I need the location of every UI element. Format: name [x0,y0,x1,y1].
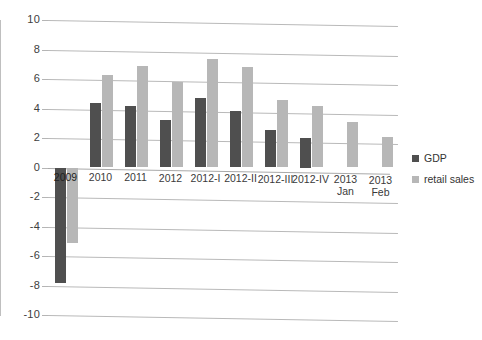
x-axis-label-2013-Feb: 2013Feb [357,174,404,198]
gridline--10 [48,315,398,322]
y-tick-label-4: 4 [0,102,40,114]
y-tick-label--4: -4 [0,220,40,232]
y-tick-label-8: 8 [0,43,40,55]
bar-chart: 20092010201120122012-I2012-II2012-III201… [0,0,482,340]
legend-label: retail sales [424,173,474,185]
legend-swatch-icon [412,155,419,162]
y-tick-label-0: 0 [0,161,40,173]
y-tick--10 [42,315,48,316]
legend-item-retail-sales[interactable]: retail sales [412,173,474,185]
y-tick-label-2: 2 [0,131,40,143]
plot-area: 20092010201120122012-I2012-II2012-III201… [48,20,398,315]
y-tick-label--10: -10 [0,308,40,320]
chart-legend: GDPretail sales [412,152,474,194]
y-tick-label--6: -6 [0,249,40,261]
y-tick-label--8: -8 [0,279,40,291]
legend-swatch-icon [412,176,419,183]
y-tick-label-10: 10 [0,13,40,25]
legend-item-gdp[interactable]: GDP [412,152,474,164]
x-axis-labels: 20092010201120122012-I2012-II2012-III201… [48,20,398,315]
y-tick-label--2: -2 [0,190,40,202]
y-tick-label-6: 6 [0,72,40,84]
legend-label: GDP [424,152,447,164]
